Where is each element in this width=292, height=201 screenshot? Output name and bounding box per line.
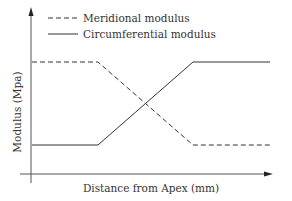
chart-svg: Meridional modulus Circumferential modul… [0, 0, 292, 201]
modulus-chart: Meridional modulus Circumferential modul… [0, 0, 292, 201]
x-axis-label: Distance from Apex (mm) [83, 182, 219, 194]
legend-label-meridional: Meridional modulus [83, 12, 190, 24]
y-axis-arrow-icon [29, 7, 34, 16]
series-meridional-line [32, 62, 270, 145]
series-circumferential-line [32, 62, 270, 145]
legend: Meridional modulus Circumferential modul… [48, 12, 216, 40]
x-axis-arrow-icon [264, 172, 273, 177]
legend-label-circumferential: Circumferential modulus [83, 28, 216, 40]
y-axis-label: Modulus (Mpa) [11, 71, 23, 152]
